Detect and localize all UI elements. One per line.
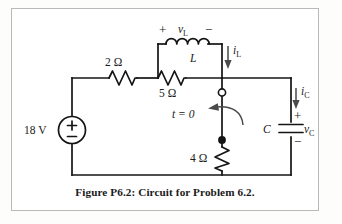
capacitor-current-label: iC: [301, 85, 310, 100]
voltage-source-label: 18 V: [24, 124, 47, 136]
inductor-current-label: iL: [233, 44, 241, 59]
capacitor-voltage-label: vC: [304, 123, 314, 138]
resistor-5ohm: [158, 71, 186, 85]
resistor-4ohm: [215, 147, 229, 171]
switch-open-terminal[interactable]: [218, 89, 225, 96]
inductor: [166, 39, 209, 44]
switch-action-arrow: [208, 103, 243, 125]
switch-pivot-node[interactable]: [218, 136, 226, 144]
inductor-plus-sign: +: [159, 22, 166, 37]
switch-time-label: t = 0: [172, 108, 195, 120]
figure-caption: Figure P6.2: Circuit for Problem 6.2.: [11, 186, 319, 198]
capacitor-symbol-label: C: [263, 123, 271, 135]
capacitor-plus-sign: +: [294, 108, 301, 123]
figure-page: 2 Ω 5 Ω + vL − L iL: [0, 0, 342, 224]
inductor-symbol-label: L: [189, 52, 196, 64]
resistor-5ohm-label: 5 Ω: [159, 87, 176, 99]
capacitor-minus-sign: −: [294, 134, 301, 149]
resistor-2ohm: [109, 71, 137, 85]
voltage-source: [59, 117, 86, 144]
inductor-minus-sign: −: [205, 22, 212, 37]
capacitor-current-arrow: [292, 88, 299, 109]
resistor-2ohm-label: 2 Ω: [105, 56, 122, 68]
capacitor: [279, 125, 303, 133]
inductor-voltage-label: vL: [178, 23, 188, 38]
resistor-4ohm-label: 4 Ω: [190, 152, 207, 164]
inductor-current-arrow: [224, 46, 231, 69]
